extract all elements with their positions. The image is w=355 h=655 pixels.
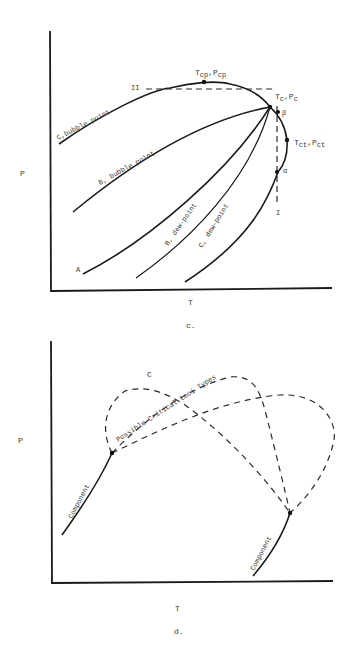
c-bubble-point-curve [59,82,270,144]
critical-point-component-2 [288,511,292,515]
y-axis-label: P [18,436,23,445]
svg-text:Tct,Pct: Tct,Pct [294,138,325,149]
critical-locus-high-loop [106,389,290,513]
x-axis-label: T [175,604,180,613]
path-I-label: I [276,209,280,217]
critical-point-label: Tc,Pc [275,92,298,103]
x-axis [51,288,332,291]
y-axis-label: P [20,169,25,178]
diagram-d-caption: d. [174,627,184,636]
c-label: C [147,370,152,379]
b-bubble-point-label: B, bubble point [97,149,156,187]
y-axis [51,341,52,584]
a-curve [83,107,270,274]
diagram-c: P T c. C,bubble point B, bubble point B,… [20,31,332,330]
critical-point [268,105,272,109]
beta-point [276,110,280,114]
a-label: A [76,266,81,274]
svg-text:Tc,Pc: Tc,Pc [275,92,298,103]
critical-loci-label: Possible Critical Loci Types [115,373,218,444]
phase-diagrams: P T c. C,bubble point B, bubble point B,… [0,0,355,655]
svg-text:Tcp,Pcp: Tcp,Pcp [195,68,226,79]
component-1-label: Component [67,483,92,520]
b-dew-point-curve [136,107,270,278]
x-axis [52,581,333,583]
alpha-label: α [283,167,287,175]
cricondenbar-point [202,80,206,84]
critical-locus-upper [112,377,290,513]
cricondentherm-label: Tct,Pct [294,138,325,149]
diagram-c-caption: c. [186,321,196,330]
x-axis-label: T [188,298,193,307]
c-dew-point-curve [185,107,287,282]
c-bubble-point-label: C,bubble point [55,108,111,142]
cricondentherm-point [285,138,289,142]
y-axis [50,31,51,292]
alpha-point [275,170,279,174]
b-bubble-point-curve [73,107,270,212]
b-dew-point-label: B, dew-point [163,201,198,247]
cricondenbar-label: Tcp,Pcp [195,68,226,79]
critical-point-component-1 [110,451,114,455]
critical-locus-wide-loop [112,395,334,513]
beta-label: β [282,109,286,117]
diagram-d: P T d. C Possible Critical Loci Types Co… [18,341,334,636]
path-II-label: II [131,84,139,92]
c-dew-point-label: C, dew-point [197,202,231,249]
